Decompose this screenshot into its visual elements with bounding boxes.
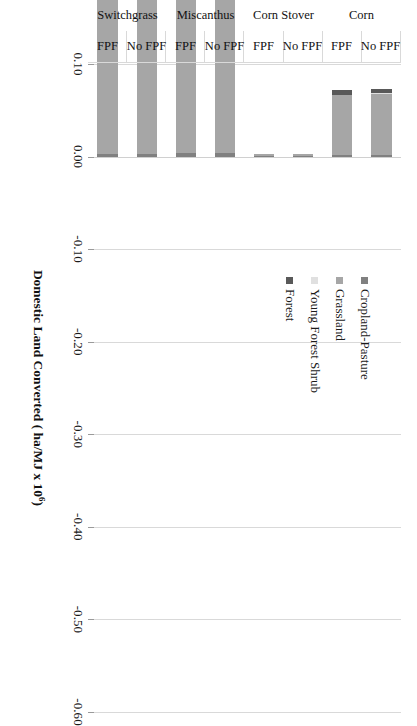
bar-segment[interactable] (293, 156, 313, 157)
value-axis-tick-label: 0.10 (70, 52, 86, 75)
value-axis-tick-mark (88, 157, 94, 158)
category-axis-labels: SwitchgrassFPFNo FPFMiscanthusFPFNo FPFC… (88, 0, 401, 64)
category-group-label: Switchgrass (97, 8, 157, 23)
value-axis-tick-mark (88, 249, 94, 250)
legend-label: Grassland (332, 289, 348, 341)
category-group: CornFPFNo FPF (323, 0, 401, 63)
bar-segment[interactable] (371, 94, 391, 155)
value-axis-tick-mark (88, 527, 94, 528)
legend-label: Cropland-Pasture (357, 289, 373, 380)
bar-row (245, 64, 284, 712)
category-sub-label: No FPF (205, 39, 244, 54)
legend-swatch-icon (312, 277, 319, 284)
value-axis-tick-mark (88, 342, 94, 343)
legend-label: Young Forest Shrub (307, 289, 323, 393)
bar-segment[interactable] (137, 154, 157, 157)
legend-label: Forest (282, 289, 298, 322)
legend-item[interactable]: Grassland (332, 277, 348, 393)
axis-title-tail: ) (31, 502, 46, 507)
stacked-bar[interactable] (332, 90, 352, 157)
category-sub: FPF (88, 31, 127, 62)
category-group-label: Corn Stover (253, 8, 314, 23)
bar-segment[interactable] (176, 153, 196, 157)
value-axis-title: Domestic Land Converted ( ha/MJ x 106) (30, 64, 48, 712)
value-axis-tick-mark (88, 619, 94, 620)
bar-segment[interactable] (254, 156, 274, 157)
gridline (88, 712, 401, 713)
legend-swatch-icon (362, 277, 369, 284)
bar-segment[interactable] (332, 95, 352, 154)
value-axis-tick-label: -0.60 (70, 698, 86, 726)
bar-segment[interactable] (215, 153, 235, 157)
bar-segment[interactable] (97, 154, 117, 157)
legend-item[interactable]: Forest (282, 277, 298, 393)
value-axis-tick-label: -0.20 (70, 328, 86, 356)
value-axis-tick-mark (88, 64, 94, 65)
category-sub: FPF (245, 31, 284, 62)
category-sub-label: FPF (253, 39, 274, 54)
value-axis-tick-label: -0.40 (70, 513, 86, 541)
category-sub: FPF (323, 31, 362, 62)
category-sub: No FPF (205, 31, 244, 62)
category-sub-label: No FPF (283, 39, 322, 54)
value-axis-tick-label: -0.50 (70, 606, 86, 634)
category-group: Corn StoverFPFNo FPF (245, 0, 323, 63)
category-sub: FPF (166, 31, 205, 62)
stacked-bar[interactable] (293, 154, 313, 157)
stacked-bar[interactable] (371, 89, 391, 157)
category-sub-label: No FPF (127, 39, 166, 54)
bar-row (205, 64, 244, 712)
category-sub-label: No FPF (361, 39, 400, 54)
bar-row (166, 64, 205, 712)
category-sub: No FPF (127, 31, 166, 62)
value-axis-tick-mark (88, 712, 94, 713)
value-axis-tick-label: -0.30 (70, 420, 86, 448)
stacked-bar[interactable] (254, 154, 274, 157)
category-group: MiscanthusFPFNo FPF (166, 0, 244, 63)
category-sub: No FPF (362, 31, 401, 62)
category-sub-label: FPF (331, 39, 352, 54)
legend-item[interactable]: Cropland-Pasture (357, 277, 373, 393)
value-axis-tick-mark (88, 434, 94, 435)
category-sub-label: FPF (175, 39, 196, 54)
value-axis-tick-labels: 0.100.00-0.10-0.20-0.30-0.40-0.50-0.60 (60, 64, 86, 712)
legend-swatch-icon (337, 277, 344, 284)
bar-segment[interactable] (332, 155, 352, 157)
chart-legend: Cropland-PastureGrasslandYoung Forest Sh… (282, 277, 373, 393)
value-axis-tick-label: -0.10 (70, 235, 86, 263)
legend-swatch-icon (287, 277, 294, 284)
category-group-label: Miscanthus (177, 8, 235, 23)
axis-title-main: Domestic Land Converted ( ha/MJ x 10 (31, 270, 46, 497)
category-group: SwitchgrassFPFNo FPF (88, 0, 166, 63)
bar-row (88, 64, 127, 712)
category-sub: No FPF (284, 31, 323, 62)
bar-row (127, 64, 166, 712)
category-sub-label: FPF (97, 39, 118, 54)
legend-item[interactable]: Young Forest Shrub (307, 277, 323, 393)
value-axis-tick-label: 0.00 (70, 145, 86, 168)
bar-segment[interactable] (371, 155, 391, 157)
category-group-label: Corn (349, 8, 374, 23)
